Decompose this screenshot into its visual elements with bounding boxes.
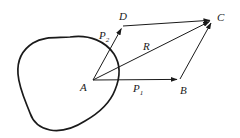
side-dc-line bbox=[123, 20, 210, 26]
vector-parallelogram-figure: A B C D P1 P2 R bbox=[0, 0, 240, 138]
vertex-label-c: C bbox=[217, 12, 224, 23]
vector-label-p2-subscript: 2 bbox=[106, 36, 110, 44]
vertex-label-b: B bbox=[180, 85, 187, 96]
vertex-label-a: A bbox=[80, 82, 87, 93]
vector-label-p2: P2 bbox=[99, 30, 109, 44]
vector-label-p1: P1 bbox=[133, 83, 143, 97]
body-outline-shape bbox=[18, 36, 119, 130]
side-bc-line bbox=[180, 23, 211, 79]
vector-p1-line bbox=[93, 79, 177, 80]
vector-label-p1-subscript: 1 bbox=[140, 89, 144, 97]
resultant-label-r: R bbox=[143, 41, 150, 52]
vertex-label-d: D bbox=[119, 11, 127, 22]
